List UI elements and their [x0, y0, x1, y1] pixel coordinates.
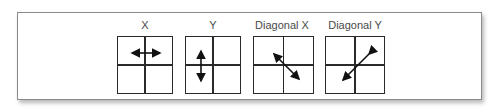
panel-label: Diagonal Y: [324, 19, 386, 31]
vertical-double-arrow-icon: [186, 37, 242, 95]
quadrant-grid: [253, 36, 314, 94]
panel-y: Y: [184, 13, 242, 99]
diagonal-ne-sw-double-arrow-icon: [326, 37, 386, 95]
panel-label: X: [116, 19, 174, 31]
panel-label: Y: [184, 19, 242, 31]
diagonal-nw-se-double-arrow-icon: [254, 37, 315, 95]
quadrant-grid: [117, 36, 173, 94]
panel-diagonal-x: Diagonal X: [250, 13, 314, 99]
horizontal-double-arrow-icon: [118, 37, 174, 95]
direction-diagram-panel: X Y Diagon: [17, 12, 482, 100]
panel-x: X: [116, 13, 174, 99]
quadrant-grid: [185, 36, 241, 94]
quadrant-grid: [325, 36, 385, 94]
panel-diagonal-y: Diagonal Y: [324, 13, 386, 99]
panel-label: Diagonal X: [250, 19, 314, 31]
